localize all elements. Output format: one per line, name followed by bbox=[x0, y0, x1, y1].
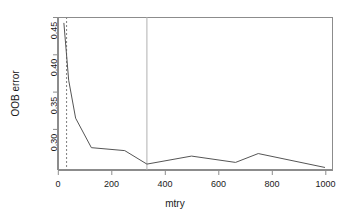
x-axis bbox=[58, 171, 333, 176]
oob-error-plot: OOB error 0.45 0.40 0.35 0.30 0 200 400 … bbox=[0, 0, 350, 220]
x-axis-title: mtry bbox=[0, 198, 350, 209]
y-axis bbox=[53, 17, 58, 170]
oob-error-line bbox=[64, 23, 325, 168]
plot-canvas bbox=[0, 0, 350, 220]
